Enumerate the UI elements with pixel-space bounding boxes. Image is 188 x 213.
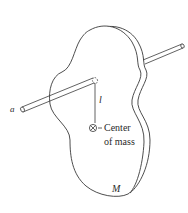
center-of-mass-label-line1: Center [104,122,131,133]
center-of-mass-icon [89,124,96,131]
axis-label: a [10,104,15,114]
length-label: l [99,94,102,105]
physical-pendulum-diagram: a l Center of mass M [0,0,188,213]
rod-right [143,43,185,64]
mass-label: M [111,183,121,194]
rigid-body-outline [50,26,145,196]
center-of-mass-label-line2: of mass [104,136,135,147]
